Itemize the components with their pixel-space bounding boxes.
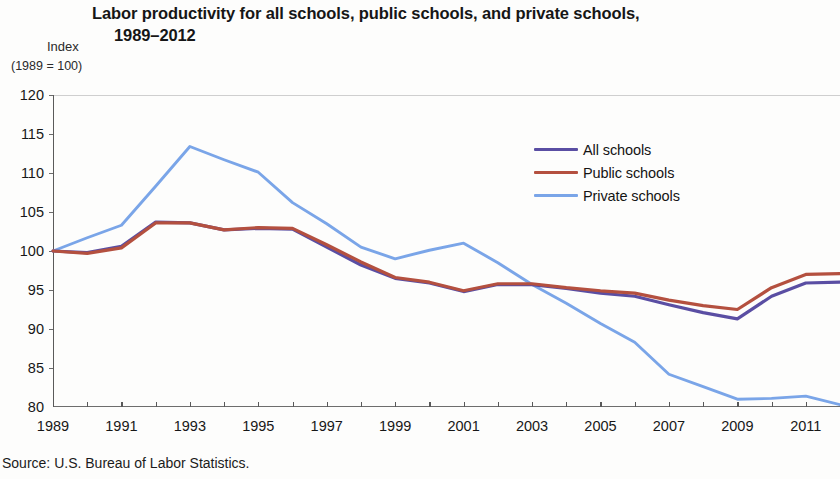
x-tick-label: 1993: [174, 418, 206, 434]
x-tick-label: 2007: [653, 418, 685, 434]
y-tick-label: 90: [28, 321, 44, 337]
series-line-all-schools: [53, 222, 840, 319]
legend-item: Private schools: [534, 184, 680, 207]
y-tick-label: 85: [28, 360, 44, 376]
legend-label: All schools: [583, 142, 651, 158]
y-axis-title: Index: [47, 39, 79, 54]
x-tick-label: 1989: [37, 418, 69, 434]
series-line-public-schools: [53, 223, 840, 310]
legend-label: Private schools: [583, 188, 680, 204]
y-tick-label: 110: [21, 165, 44, 181]
y-tick-label: 80: [28, 399, 44, 415]
y-tick-label: 105: [20, 204, 44, 220]
x-tick-label: 1997: [311, 418, 343, 434]
chart-title: Labor productivity for all schools, publ…: [92, 2, 832, 47]
x-tick-label: 1991: [105, 418, 137, 434]
chart-legend: All schoolsPublic schoolsPrivate schools: [534, 138, 680, 207]
series-line-private-schools: [53, 146, 840, 404]
y-tick-label: 115: [21, 126, 44, 142]
chart-title-line-2: 1989–2012: [114, 24, 832, 46]
legend-item: Public schools: [534, 161, 680, 184]
chart-figure: Labor productivity for all schools, publ…: [0, 0, 840, 479]
x-tick-label: 2003: [516, 418, 548, 434]
y-axis-basis-note: (1989 = 100): [11, 59, 82, 73]
x-tick-label: 2009: [721, 418, 753, 434]
x-tick-label: 2005: [584, 418, 616, 434]
legend-label: Public schools: [583, 165, 674, 181]
x-tick-label: 2001: [447, 418, 479, 434]
x-tick-label: 1995: [242, 418, 274, 434]
y-tick-label: 120: [20, 87, 44, 103]
y-tick-label: 100: [20, 243, 44, 259]
plot-area: 80859095100105110115120 1989199119931995…: [53, 95, 840, 407]
series-lines: [53, 95, 840, 407]
source-note: Source: U.S. Bureau of Labor Statistics.: [2, 455, 249, 471]
x-tick-label: 2011: [790, 418, 821, 434]
y-tick-label: 95: [28, 282, 44, 298]
legend-item: All schools: [534, 138, 680, 161]
chart-title-line-1: Labor productivity for all schools, publ…: [92, 4, 639, 22]
legend-swatch-icon: [534, 148, 578, 152]
legend-swatch-icon: [534, 171, 578, 175]
x-tick-label: 1999: [379, 418, 411, 434]
legend-swatch-icon: [534, 194, 578, 198]
